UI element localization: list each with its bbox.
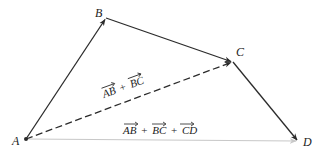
- term-cd: CD: [182, 124, 197, 136]
- vector-addition-diagram: A B C D AB + BC AB + BC + CD: [0, 0, 322, 156]
- plus-op-1: +: [141, 124, 147, 136]
- point-a-label: A: [11, 134, 20, 148]
- point-c-label: C: [236, 45, 245, 59]
- term-ab: AB: [122, 124, 137, 136]
- vector-bc: [106, 18, 231, 62]
- vector-ab: [26, 20, 105, 140]
- point-d-label: D: [302, 135, 312, 149]
- vector-ad-resultant: [26, 139, 296, 141]
- vector-cd: [233, 62, 297, 140]
- svg-text:AB + BC +: AB + BC + CD: [122, 124, 197, 136]
- term-bc: BC: [128, 74, 146, 90]
- point-a-dot: [24, 137, 28, 141]
- sum-ac-label: AB + BC: [99, 72, 146, 101]
- sum-ad-label: AB + BC + CD: [122, 122, 197, 136]
- term-bc: BC: [152, 124, 167, 136]
- plus-op: +: [118, 80, 128, 93]
- term-ab: AB: [100, 84, 118, 100]
- point-b-label: B: [95, 6, 103, 20]
- plus-op-2: +: [171, 124, 177, 136]
